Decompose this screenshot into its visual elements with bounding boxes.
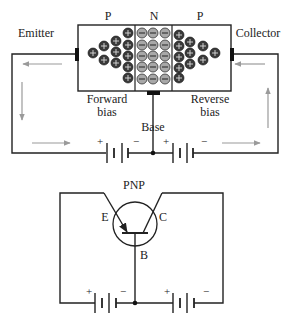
base-terminal: [147, 91, 160, 95]
reverse-bias-label-line2: bias: [200, 105, 220, 119]
pnp-title: PNP: [123, 178, 145, 192]
region-label-p-right: P: [197, 9, 204, 23]
top-diagram: P N P: [12, 9, 280, 163]
battery1-plus: +: [97, 135, 103, 147]
forward-bias-label-line2: bias: [97, 105, 117, 119]
schematic-collector-wire: [162, 193, 223, 303]
e-label: E: [101, 210, 108, 224]
junction-dot: [151, 151, 156, 156]
schematic-battery1: + −: [86, 285, 126, 313]
battery2-minus: −: [201, 135, 207, 147]
schematic-junction-dot: [133, 301, 138, 306]
region-label-p-left: P: [105, 9, 112, 23]
collector-battery: + −: [163, 135, 207, 163]
schematic-battery1-minus: −: [120, 285, 126, 297]
pnp-transistor-figure: P N P: [0, 0, 287, 323]
emitter-terminal: [75, 48, 79, 61]
schematic-battery2-minus: −: [203, 285, 209, 297]
collector-label: Collector: [236, 26, 281, 40]
emitter-battery: + −: [97, 135, 139, 163]
reverse-bias-label-line1: Reverse: [191, 92, 230, 106]
region-label-n: N: [150, 9, 159, 23]
forward-bias-label-line1: Forward: [87, 92, 128, 106]
schematic-emitter-wire: [60, 193, 104, 303]
collector-terminal: [230, 48, 234, 61]
schematic-battery1-plus: +: [86, 285, 92, 297]
schematic-battery2-plus: +: [164, 285, 170, 297]
schematic-battery2: + −: [164, 285, 209, 313]
base-electrons: [137, 28, 170, 84]
battery1-minus: −: [133, 135, 139, 147]
pnp-schematic: PNP E C B + − + −: [60, 178, 223, 313]
b-label: B: [140, 248, 148, 262]
emitter-label: Emitter: [18, 26, 54, 40]
battery2-plus: +: [163, 135, 169, 147]
c-label: C: [159, 210, 167, 224]
